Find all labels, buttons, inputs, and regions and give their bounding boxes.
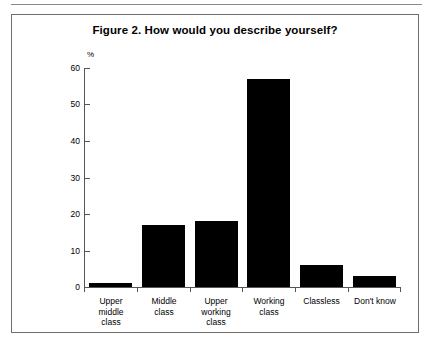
y-tick-label-50: 50: [58, 100, 80, 109]
x-category-label-upper-middle-class: Upper middle class: [85, 296, 137, 328]
y-tick-label-60: 60: [58, 64, 80, 73]
x-tick-mark: [242, 288, 243, 292]
bar-middle-class: [142, 225, 185, 287]
y-tick-label-30: 30: [58, 174, 80, 183]
y-tick-label-40: 40: [58, 137, 80, 146]
y-axis-unit-label: %: [87, 50, 94, 59]
y-tick-mark: [85, 287, 90, 288]
x-label-line: Upper: [85, 296, 137, 307]
x-tick-mark: [348, 288, 349, 292]
x-tick-mark: [295, 288, 296, 292]
y-tick-label-20: 20: [58, 210, 80, 219]
x-category-label-dont-know: Don't know: [347, 296, 403, 307]
x-label-line: Upper: [190, 296, 242, 307]
bar-chart-plot: % 60 50 40 30 20 10 0 Upper middle class…: [0, 0, 431, 349]
x-label-line: Middle: [138, 296, 190, 307]
y-tick-mark: [85, 178, 90, 179]
y-tick-mark: [85, 214, 90, 215]
x-category-label-classless: Classless: [295, 296, 348, 307]
x-category-label-working-class: Working class: [243, 296, 295, 317]
y-tick-mark: [85, 68, 90, 69]
x-category-label-middle-class: Middle class: [138, 296, 190, 317]
x-label-line: class: [85, 317, 137, 328]
y-tick-mark: [85, 141, 90, 142]
bar-dont-know: [353, 276, 396, 287]
x-label-line: class: [243, 307, 295, 318]
y-tick-mark: [85, 251, 90, 252]
x-tick-mark: [84, 288, 85, 292]
y-tick-label-10: 10: [58, 247, 80, 256]
bar-upper-middle-class: [89, 283, 132, 287]
y-tick-mark: [85, 104, 90, 105]
x-category-label-upper-working-class: Upper working class: [190, 296, 242, 328]
x-label-line: Working: [243, 296, 295, 307]
x-label-line: Classless: [295, 296, 348, 307]
x-tick-mark: [400, 288, 401, 292]
x-tick-mark: [190, 288, 191, 292]
x-label-line: working: [190, 307, 242, 318]
bar-classless: [300, 265, 343, 287]
x-label-line: class: [190, 317, 242, 328]
x-label-line: middle: [85, 307, 137, 318]
bar-working-class: [247, 79, 290, 287]
y-tick-label-0: 0: [58, 283, 80, 292]
x-tick-mark: [137, 288, 138, 292]
x-label-line: Don't know: [347, 296, 403, 307]
bar-upper-working-class: [195, 221, 238, 287]
x-label-line: class: [138, 307, 190, 318]
